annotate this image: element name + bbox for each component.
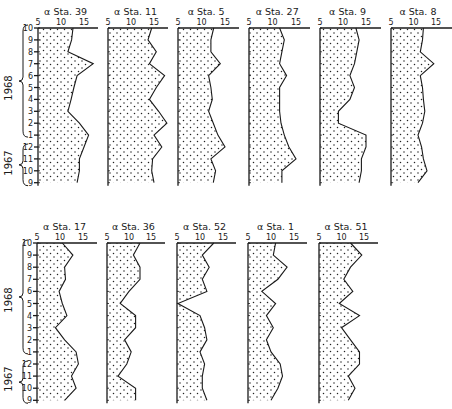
station-panel: 51015α Sta. 5: [175, 6, 239, 186]
x-tick-label: 15: [220, 18, 230, 27]
month-tick-label: 9: [28, 179, 33, 188]
x-tick-label: 15: [146, 233, 156, 242]
year-label-1968-bottom: 1968: [3, 287, 14, 312]
alpha-area-fill: [108, 28, 167, 183]
x-tick-label: 15: [291, 18, 301, 27]
panel-title: α Sta. 27: [256, 6, 299, 17]
month-tick-label: 8: [28, 48, 33, 57]
x-tick-label: 10: [266, 233, 276, 242]
row-labels-top: 109876543211211109: [19, 24, 38, 188]
x-tick-label: 5: [104, 233, 109, 242]
alpha-curve: [209, 28, 225, 183]
x-tick-label: 5: [316, 233, 321, 242]
panel-title: α Sta. 39: [44, 6, 87, 17]
x-tick-label: 5: [105, 18, 110, 27]
station-panel: 51015α Sta. 36: [104, 221, 165, 403]
x-tick-label: 15: [361, 18, 371, 27]
alpha-area-fill: [391, 28, 434, 183]
alpha-area-fill: [320, 28, 366, 183]
x-tick-label: 10: [196, 18, 206, 27]
month-tick-label: 11: [23, 155, 33, 164]
x-tick-label: 15: [359, 233, 369, 242]
x-tick-label: 10: [56, 18, 66, 27]
x-tick-label: 5: [388, 18, 393, 27]
x-tick-label: 15: [149, 18, 159, 27]
alpha-area-fill: [319, 243, 362, 400]
month-tick-label: 3: [28, 107, 33, 116]
month-tick-label: 5: [28, 84, 33, 93]
month-tick-label: 2: [28, 119, 33, 128]
station-panel: 51015α Sta. 51: [316, 221, 378, 403]
x-tick-label: 10: [336, 233, 346, 242]
x-tick-label: 5: [34, 233, 39, 242]
station-panel: 51015α Sta. 27: [246, 6, 310, 186]
month-tick-label: 7: [27, 275, 32, 284]
month-tick-label: 9: [27, 396, 32, 405]
year-brace: [19, 25, 28, 137]
x-tick-label: 15: [78, 233, 88, 242]
station-panels: 51015α Sta. 3951015α Sta. 1151015α Sta. …: [34, 6, 452, 403]
panel-title: α Sta. 17: [43, 221, 86, 232]
month-tick-label: 7: [28, 60, 33, 69]
x-tick-label: 15: [431, 18, 441, 27]
month-tick-label: 10: [23, 167, 33, 176]
panel-title: α Sta. 51: [325, 221, 368, 232]
x-tick-label: 5: [35, 18, 40, 27]
x-tick-label: 5: [245, 233, 250, 242]
month-tick-label: 6: [27, 287, 32, 296]
month-tick-label: 4: [28, 95, 33, 104]
month-tick-label: 9: [28, 36, 33, 45]
station-panel: 51015α Sta. 17: [34, 221, 97, 403]
x-tick-label: 5: [175, 18, 180, 27]
year-label-1967-bottom: 1967: [3, 366, 14, 391]
x-tick-label: 10: [195, 233, 205, 242]
x-tick-label: 15: [218, 233, 228, 242]
year-label-1967-top: 1967: [3, 150, 14, 175]
alpha-area-fill: [249, 28, 296, 183]
panel-title: α Sta. 5: [188, 6, 225, 17]
month-tick-label: 9: [27, 251, 32, 260]
month-tick-label: 1: [28, 131, 33, 140]
row-labels-bottom: 109876543211211109: [19, 239, 37, 405]
panel-title: α Sta. 52: [183, 221, 226, 232]
x-tick-label: 5: [246, 18, 251, 27]
x-tick-label: 10: [126, 18, 136, 27]
month-tick-label: 2: [27, 336, 32, 345]
panel-title: α Sta. 1: [257, 221, 294, 232]
x-tick-label: 10: [124, 233, 134, 242]
month-tick-label: 4: [27, 312, 32, 321]
panel-title: α Sta. 36: [112, 221, 155, 232]
x-tick-label: 10: [338, 18, 348, 27]
station-panel: 51015α Sta. 52: [174, 221, 236, 403]
month-tick-label: 5: [27, 300, 32, 309]
year-label-1968-top: 1968: [3, 75, 14, 100]
panel-title: α Sta. 11: [114, 6, 157, 17]
x-tick-label: 10: [267, 18, 277, 27]
month-tick-label: 3: [27, 324, 32, 333]
x-tick-label: 5: [317, 18, 322, 27]
station-panel: 51015α Sta. 1: [245, 221, 307, 403]
x-tick-label: 15: [289, 233, 299, 242]
x-tick-label: 10: [55, 233, 65, 242]
panel-title: α Sta. 9: [329, 6, 366, 17]
alpha-diversity-figure: 109876543211211109 109876543211211109 19…: [0, 0, 452, 409]
x-tick-label: 15: [79, 18, 89, 27]
station-panel: 51015α Sta. 8: [388, 6, 452, 186]
x-tick-label: 10: [408, 18, 418, 27]
panel-title: α Sta. 8: [400, 6, 437, 17]
x-tick-label: 5: [174, 233, 179, 242]
station-panel: 51015α Sta. 11: [105, 6, 168, 186]
month-tick-label: 8: [27, 263, 32, 272]
station-panel: 51015α Sta. 39: [35, 6, 98, 186]
alpha-area-fill: [248, 243, 287, 400]
month-tick-label: 6: [28, 72, 33, 81]
month-tick-label: 1: [27, 348, 32, 357]
alpha-area-fill: [178, 28, 225, 183]
alpha-area-fill: [38, 28, 93, 183]
station-panel: 51015α Sta. 9: [317, 6, 381, 186]
